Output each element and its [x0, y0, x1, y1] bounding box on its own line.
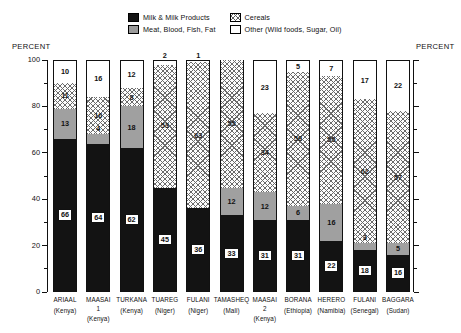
bar-4-segment-milk: 45: [153, 188, 177, 292]
bar-series-container: 6613111064416166218812455323663133125531…: [47, 60, 414, 292]
x-label-11: BAGGARA(Sudan): [372, 296, 424, 315]
bar-7-segment-other: 23: [253, 60, 277, 113]
bar-8-value-meat: 6: [296, 209, 300, 216]
bar-11[interactable]: 1655722: [386, 60, 410, 292]
y-tick-right-50: [414, 176, 417, 177]
bar-1-value-meat: 13: [61, 120, 69, 127]
bar-1-segment-other: 10: [53, 60, 77, 83]
bar-4-value-other: 2: [163, 52, 167, 59]
bar-1-value-other: 10: [61, 68, 69, 75]
bar-3[interactable]: 6218812: [120, 60, 144, 292]
bar-7-segment-milk: 31: [253, 220, 277, 292]
bar-5-value-other: 1: [196, 52, 200, 59]
bar-7-segment-cereal: 34: [253, 113, 277, 192]
legend-item-meat: Meat, Blood, Fish, Fat: [128, 25, 216, 34]
bar-11-value-other: 22: [394, 82, 402, 89]
bar-3-value-meat: 18: [128, 124, 136, 131]
bar-9-segment-meat: 16: [319, 204, 343, 241]
y-tick-label-left-20: 20: [0, 242, 40, 249]
legend-label-other: Other (Wild foods, Sugar, Oil): [245, 25, 342, 34]
bar-9-segment-other: 7: [319, 60, 343, 76]
y-tick-right-90: [414, 83, 417, 84]
bar-6-value-cereal: 55: [227, 120, 235, 127]
bar-10-value-meat: 3: [363, 234, 367, 241]
y-tick-label-left-60: 60: [0, 149, 40, 156]
y-axis-title-left: PERCENT: [12, 42, 50, 51]
bar-6-value-milk: 33: [224, 248, 238, 259]
bar-2-value-meat: 4: [96, 125, 100, 132]
bar-5-segment-other: 1: [186, 60, 210, 62]
bar-5-segment-milk: 36: [186, 208, 210, 292]
bar-4[interactable]: 45532: [153, 60, 177, 292]
bar-7-segment-meat: 12: [253, 192, 277, 220]
y-tick-right-20: [414, 245, 419, 246]
bar-10-segment-meat: 3: [353, 243, 377, 250]
bar-6-value-meat: 12: [227, 198, 235, 205]
bar-3-value-milk: 62: [125, 214, 139, 225]
bar-11-segment-meat: 5: [386, 243, 410, 255]
bar-2-segment-other: 16: [86, 60, 110, 97]
bar-6[interactable]: 331255: [220, 60, 244, 292]
bar-8-segment-cereal: 58: [286, 72, 310, 207]
bar-3-segment-other: 12: [120, 60, 144, 88]
y-tick-right-40: [414, 199, 419, 200]
x-label-country-2: (Kenya): [72, 315, 124, 324]
bar-4-value-cereal: 53: [161, 122, 169, 129]
bar-2-value-other: 16: [94, 75, 102, 82]
y-tick-right-100: [414, 60, 419, 61]
bar-7-value-other: 23: [261, 84, 269, 91]
bar-11-segment-milk: 16: [386, 255, 410, 292]
bar-8-segment-milk: 31: [286, 220, 310, 292]
bar-5-segment-cereal: 63: [186, 62, 210, 208]
bar-1[interactable]: 66131110: [53, 60, 77, 292]
bar-1-segment-cereal: 11: [53, 83, 77, 109]
legend-item-cereals: Cereals: [230, 13, 342, 22]
bar-7-value-meat: 12: [261, 203, 269, 210]
bar-3-segment-cereal: 8: [120, 88, 144, 107]
bar-2[interactable]: 6441616: [86, 60, 110, 292]
chart-legend: Milk & Milk Products Cereals Meat, Blood…: [128, 13, 341, 34]
y-tick-right-60: [414, 152, 419, 153]
bar-11-segment-other: 22: [386, 60, 410, 111]
legend-swatch-milk-icon: [128, 13, 139, 22]
legend-swatch-other-icon: [230, 25, 241, 34]
bar-8[interactable]: 316585: [286, 60, 310, 292]
bar-3-value-other: 12: [128, 71, 136, 78]
bar-9-value-other: 7: [329, 65, 333, 72]
legend-swatch-meat-icon: [128, 25, 139, 34]
bar-8-segment-meat: 6: [286, 206, 310, 220]
bar-7[interactable]: 31123423: [253, 60, 277, 292]
bar-11-value-cereal: 57: [394, 174, 402, 181]
bar-9-segment-milk: 22: [319, 241, 343, 292]
bar-9-segment-cereal: 55: [319, 76, 343, 204]
bar-9[interactable]: 2216557: [319, 60, 343, 292]
y-tick-right-80: [414, 106, 419, 107]
bar-10-segment-milk: 18: [353, 250, 377, 292]
bar-5[interactable]: 36631: [186, 60, 210, 292]
bar-9-value-meat: 16: [327, 219, 335, 226]
bar-8-value-other: 5: [296, 63, 300, 70]
y-tick-label-left-100: 100: [0, 56, 40, 63]
bar-3-segment-milk: 62: [120, 148, 144, 292]
bar-2-segment-milk: 64: [86, 144, 110, 292]
bar-7-value-cereal: 34: [261, 149, 269, 156]
legend-swatch-cereals-icon: [230, 13, 241, 22]
bar-6-segment-milk: 33: [220, 215, 244, 292]
bar-2-segment-meat: 4: [86, 134, 110, 143]
x-axis-category-labels: ARIAAL(Kenya)MAASAI1(Kenya)TURKANA(Kenya…: [47, 296, 414, 332]
bar-11-segment-cereal: 57: [386, 111, 410, 243]
y-tick-right-30: [414, 222, 417, 223]
legend-item-milk: Milk & Milk Products: [128, 13, 216, 22]
bar-6-segment-cereal: 55: [220, 60, 244, 188]
y-tick-right-70: [414, 129, 417, 130]
bar-11-value-meat: 5: [396, 245, 400, 252]
bar-9-value-milk: 22: [324, 260, 338, 271]
bar-10-segment-cereal: 62: [353, 99, 377, 243]
x-label-country-11: (Sudan): [372, 307, 424, 316]
bar-1-segment-meat: 13: [53, 109, 77, 139]
bar-8-value-cereal: 58: [294, 135, 302, 142]
bar-4-segment-cereal: 53: [153, 65, 177, 188]
bar-10[interactable]: 1836217: [353, 60, 377, 292]
bar-8-value-milk: 31: [291, 250, 305, 261]
bar-11-value-milk: 16: [391, 267, 405, 278]
